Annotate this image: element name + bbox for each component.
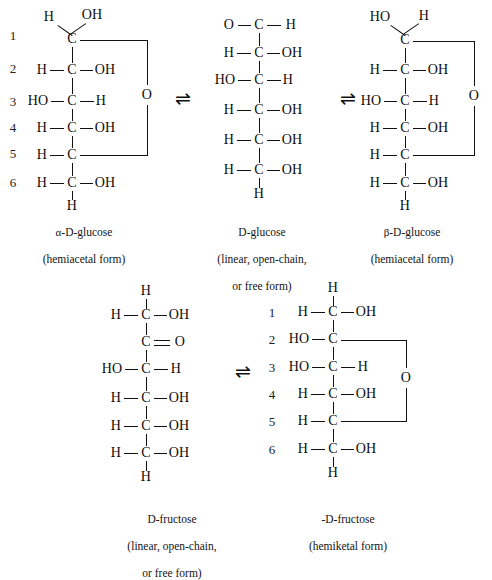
alpha-bond-c4-left	[50, 128, 64, 129]
alpha-bond-c2-left	[50, 70, 64, 71]
cyclic-fru-c3: C	[328, 360, 338, 374]
beta-c6-right: OH	[428, 176, 449, 190]
beta-c4-right: OH	[428, 121, 449, 135]
cyclic-fru-bond-c4-left	[311, 394, 325, 395]
alpha-c6: C	[67, 176, 77, 190]
fru-carbon-number-2: 2	[269, 333, 276, 346]
linear-glu-c6-left: H	[224, 163, 234, 177]
linear-fru-ketone-oxygen: O	[175, 335, 185, 349]
beta-c3-right: H	[429, 94, 439, 108]
cyclic-fru-c6-bottom-h: H	[328, 466, 338, 480]
caption-alpha-d-glucose: α-D-glucose (hemiacetal form)	[0, 212, 169, 266]
fru-carbon-number-6: 6	[269, 443, 276, 456]
alpha-ring-oxygen: O	[142, 88, 152, 102]
linear-glu-c1-hydrogen: H	[286, 18, 296, 32]
fru-carbon-number-4: 4	[269, 388, 276, 401]
linear-fru-bond-c1-left	[124, 315, 138, 316]
cyclic-fru-c6-right: OH	[356, 442, 377, 456]
linear-fru-c5-right: OH	[169, 419, 190, 433]
carbon-number-2: 2	[10, 62, 17, 75]
alpha-c3-left: HO	[28, 94, 49, 108]
cyclic-fru-bond-c1-left	[311, 312, 325, 313]
cyclic-fru-bond-c1-right	[341, 312, 354, 313]
linear-fru-bond-c2-c3	[146, 350, 147, 362]
caption-linear-fru-form2: or free form)	[142, 567, 201, 579]
beta-bond-c2-left	[383, 70, 397, 71]
linear-glu-bond-c3-right	[267, 80, 281, 81]
cyclic-fru-c2: C	[328, 332, 338, 346]
alpha-bond-c4-c5	[72, 136, 73, 148]
linear-fru-bond-c4-right	[154, 398, 167, 399]
alpha-c5-left: H	[37, 148, 47, 162]
alpha-ring-bond-right-upper	[147, 40, 148, 85]
beta-c5: C	[400, 148, 410, 162]
cyclic-fru-c4: C	[328, 387, 338, 401]
linear-glu-c3: C	[254, 73, 264, 87]
alpha-c1-right-label: OH	[82, 8, 103, 22]
linear-glu-c3-right: H	[283, 73, 293, 87]
alpha-bond-c1-c2	[72, 47, 73, 63]
linear-fru-c1: C	[141, 308, 151, 322]
alpha-c6-bottom-h: H	[67, 199, 77, 213]
linear-fru-c6: C	[141, 446, 151, 460]
linear-fru-c3-left: HO	[102, 362, 123, 376]
beta-bond-c1-c2	[405, 48, 406, 63]
alpha-c4-right: OH	[95, 121, 116, 135]
beta-bond-c6-left	[383, 183, 397, 184]
alpha-c3-right: H	[96, 94, 106, 108]
caption-d-fructose-linear: D-fructose (linear, open-chain, or free …	[82, 499, 262, 580]
caption-linear-glu-form1: (linear, open-chain,	[217, 253, 306, 265]
linear-glu-c6-bottom-h: H	[254, 187, 264, 201]
caption-linear-glu-name: D-glucose	[238, 226, 285, 238]
linear-fru-bond-c3-c4	[146, 377, 147, 391]
linear-fru-bond-c5-left	[124, 426, 138, 427]
cyclic-fru-bond-c6-h	[333, 457, 334, 467]
beta-bond-c3-left	[384, 101, 397, 102]
cyclic-fru-ring-oxygen: O	[401, 371, 411, 385]
beta-bond-c2-right	[413, 70, 426, 71]
beta-c2: C	[400, 63, 410, 77]
cyclic-fru-c4-right: OH	[356, 387, 377, 401]
linear-glu-c2: C	[254, 46, 264, 60]
beta-bond-c5-left	[383, 155, 397, 156]
caption-alpha-form: (hemiacetal form)	[43, 253, 126, 265]
alpha-c4: C	[67, 121, 77, 135]
linear-glu-bond-c3-left	[238, 80, 251, 81]
linear-glu-c2-left: H	[224, 46, 234, 60]
equilibrium-arrow-2: ⇌	[340, 89, 356, 108]
carbon-number-1: 1	[10, 29, 17, 42]
cyclic-fru-bond-c1-c2	[333, 320, 334, 332]
linear-glu-c1-oxygen: O	[224, 18, 234, 32]
cyclic-fru-ring-bond-top	[341, 340, 407, 341]
beta-ring-bond-right-lower	[474, 106, 475, 155]
linear-glu-c5-right: OH	[282, 133, 303, 147]
linear-glu-bond-c6-right	[267, 170, 280, 171]
alpha-c2-left: H	[37, 63, 47, 77]
linear-glu-bond-c1-h	[267, 25, 281, 26]
caption-alpha-name: -D-glucose	[61, 226, 112, 238]
beta-c2-right: OH	[428, 63, 449, 77]
linear-fru-c6-bottom-h: H	[141, 470, 151, 484]
beta-c4: C	[400, 121, 410, 135]
linear-fru-bond-c3-right	[154, 369, 168, 370]
linear-glu-bond-c2-right	[267, 53, 280, 54]
alpha-bond-c6-left	[50, 183, 64, 184]
linear-fru-c2: C	[141, 335, 151, 349]
linear-glu-bond-c5-right	[267, 140, 280, 141]
linear-glu-c5: C	[254, 133, 264, 147]
linear-fru-c1-right: OH	[169, 308, 190, 322]
beta-bond-c2-c3	[405, 78, 406, 94]
beta-bond-c4-c5	[405, 136, 406, 148]
caption-linear-fru-name: D-fructose	[147, 513, 196, 525]
linear-glu-bond-c1-c2	[259, 33, 260, 46]
linear-fru-bond-c5-right	[154, 426, 167, 427]
alpha-c6-left: H	[37, 176, 47, 190]
linear-glu-c4: C	[254, 103, 264, 117]
cyclic-fru-c1-top-h: H	[328, 281, 338, 295]
alpha-c2: C	[67, 63, 77, 77]
cyclic-fru-c3-right: H	[358, 360, 368, 374]
beta-c3-left: HO	[361, 94, 382, 108]
linear-glu-c3-left: HO	[215, 73, 236, 87]
linear-glu-bond-c4-c5	[259, 118, 260, 133]
